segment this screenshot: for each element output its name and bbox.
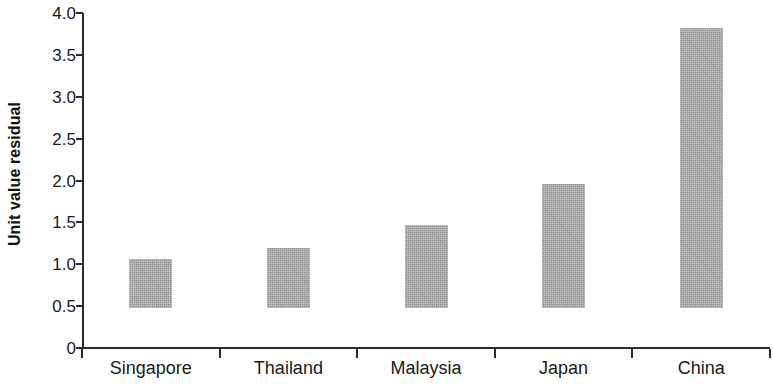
x-axis-tick-labels: SingaporeThailandMalaysiaJapanChina	[0, 356, 773, 388]
x-axis-tick-label: Japan	[495, 356, 633, 380]
x-axis-tick-label: Singapore	[82, 356, 220, 380]
x-axis-tick-label: China	[632, 356, 770, 380]
x-axis-tick-label: Malaysia	[357, 356, 495, 380]
bar	[680, 28, 723, 308]
x-axis-tick-label: Thailand	[220, 356, 358, 380]
bar	[542, 184, 585, 308]
bar	[267, 248, 310, 308]
bar	[129, 259, 172, 308]
bars-layer	[0, 0, 773, 348]
bar	[405, 225, 448, 308]
bar-chart: Unit value residual 00.51.01.52.02.53.03…	[0, 0, 773, 388]
